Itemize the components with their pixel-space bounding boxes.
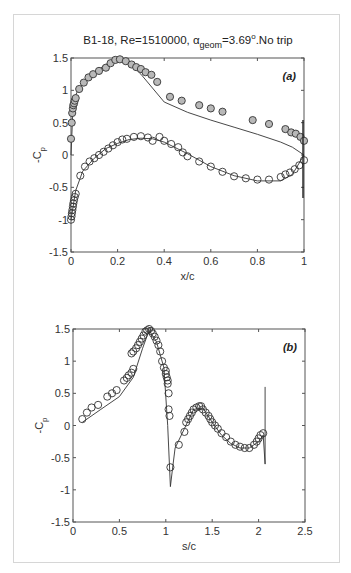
y-tick-label: 0.5 xyxy=(55,387,70,399)
computation-line xyxy=(71,59,304,155)
plot-area xyxy=(73,329,305,522)
y-tick-label: 0 xyxy=(62,149,68,161)
x-tick-label: 1 xyxy=(301,255,307,267)
y-tick-label: 1.5 xyxy=(53,52,68,64)
y-tick-label: -1 xyxy=(58,214,68,226)
data-point xyxy=(196,102,203,109)
y-tick-label: 0.5 xyxy=(53,117,68,129)
y-tick-label: -0.5 xyxy=(49,181,68,193)
data-point xyxy=(148,71,155,78)
x-tick-label: 2.5 xyxy=(297,525,312,537)
x-axis-label: x/c xyxy=(180,270,195,282)
panel-label: (b) xyxy=(283,341,297,353)
data-point xyxy=(161,137,168,144)
data-point xyxy=(218,430,225,437)
data-point xyxy=(156,133,163,140)
data-point xyxy=(265,176,272,183)
x-tick-label: 0.6 xyxy=(203,255,218,267)
x-axis-label: s/c xyxy=(182,540,197,552)
data-point xyxy=(166,93,173,100)
panel-label: (a) xyxy=(283,70,297,82)
data-point xyxy=(254,176,261,183)
x-tick-label: 0.8 xyxy=(250,255,265,267)
data-point xyxy=(165,406,172,413)
data-point xyxy=(154,78,161,85)
x-tick-label: 0.4 xyxy=(157,255,172,267)
data-point xyxy=(219,108,226,115)
y-axis-label: -Cp xyxy=(33,417,49,434)
x-tick-label: 0.5 xyxy=(112,525,127,537)
figure-canvas: B1-18, Re=1510000, αgeom=3.69o.No trip 0… xyxy=(0,0,351,573)
figure-title: B1-18, Re=1510000, αgeom=3.69o.No trip xyxy=(83,32,292,50)
y-tick-label: 1 xyxy=(64,355,70,367)
data-point xyxy=(79,416,86,423)
chart-b: 00.511.522.5-1.5-1-0.500.511.5s/c-Cp(b) xyxy=(33,323,313,552)
x-tick-label: 1 xyxy=(163,525,169,537)
y-axis-label: -Cp xyxy=(31,146,47,163)
data-point xyxy=(72,95,79,102)
y-tick-label: 1 xyxy=(62,84,68,96)
data-point xyxy=(95,67,102,74)
y-tick-label: 1.5 xyxy=(55,323,70,335)
data-point xyxy=(165,390,172,397)
chart-a: 00.20.40.60.81-1.5-1-0.500.511.5x/c-Cp(a… xyxy=(31,52,308,282)
x-tick-label: 1.5 xyxy=(205,525,220,537)
y-tick-label: -1 xyxy=(60,484,70,496)
y-tick-label: 0 xyxy=(64,420,70,432)
y-tick-label: -1.5 xyxy=(49,246,68,258)
data-point xyxy=(249,117,256,124)
x-tick-label: 0.2 xyxy=(110,255,125,267)
x-tick-label: 0 xyxy=(68,255,74,267)
data-point xyxy=(300,137,307,144)
y-tick-label: -0.5 xyxy=(51,452,70,464)
data-point xyxy=(178,97,185,104)
computation-line xyxy=(82,330,265,486)
data-point xyxy=(68,119,75,126)
x-tick-label: 2 xyxy=(256,525,262,537)
data-point xyxy=(76,85,83,92)
computation-line xyxy=(71,138,304,220)
data-point xyxy=(123,135,130,142)
x-tick-label: 0 xyxy=(70,525,76,537)
data-point xyxy=(95,401,102,408)
data-point xyxy=(207,105,214,112)
y-tick-label: -1.5 xyxy=(51,516,70,528)
data-point xyxy=(265,120,272,127)
data-point xyxy=(137,133,144,140)
data-point xyxy=(67,135,74,142)
